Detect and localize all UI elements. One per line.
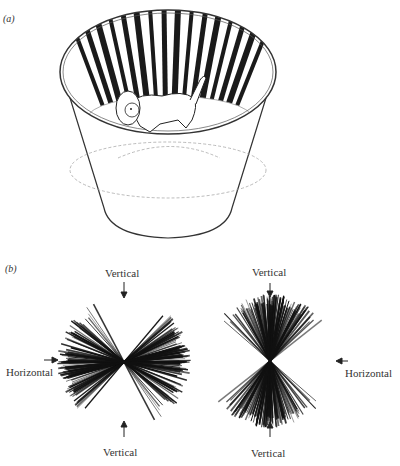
arrow-right-icon (52, 357, 58, 363)
figure-canvas (0, 0, 400, 466)
left-top-vertical-label: Vertical (105, 267, 139, 279)
orientation-plot-left (57, 304, 190, 420)
arrow-down-icon (267, 291, 273, 297)
arrow-down-icon (121, 292, 127, 298)
panel-b-label: (b) (5, 263, 17, 274)
left-horizontal-label: Horizontal (6, 366, 53, 378)
right-horizontal-label: Horizontal (345, 367, 392, 379)
left-bottom-vertical-label: Vertical (103, 446, 137, 458)
striped-cylinder-illustration (60, 8, 280, 238)
arrow-left-icon (336, 358, 342, 364)
right-bottom-vertical-label: Vertical (251, 447, 285, 459)
arrow-up-icon (121, 421, 127, 427)
right-top-vertical-label: Vertical (252, 266, 286, 278)
orientation-plot-right (218, 295, 321, 428)
